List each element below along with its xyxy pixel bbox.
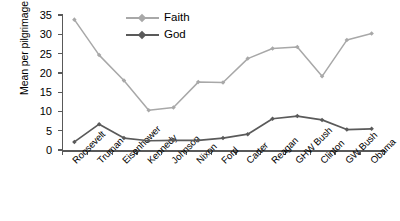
series-god <box>72 114 374 144</box>
data-point <box>270 46 275 51</box>
legend-swatch-faith <box>126 12 159 23</box>
data-point <box>146 138 151 143</box>
data-point <box>369 127 374 132</box>
data-point <box>320 118 325 123</box>
data-point <box>221 136 226 141</box>
legend-swatch-god <box>126 29 159 40</box>
legend-item-faith: Faith <box>126 9 190 26</box>
legend-marker-icon <box>138 30 146 38</box>
data-point <box>295 114 300 119</box>
legend-marker-icon <box>138 13 146 21</box>
data-point <box>345 127 350 132</box>
data-point <box>196 138 201 143</box>
legend-label-god: God <box>164 29 186 40</box>
legend-label-faith: Faith <box>164 12 190 23</box>
series-faith <box>72 17 374 112</box>
series-line <box>74 20 371 111</box>
legend: Faith God <box>126 9 190 43</box>
data-point <box>171 138 176 143</box>
chart-container: Mean per pilgrimage 05101520253035 Roose… <box>0 0 400 221</box>
legend-item-god: God <box>126 26 190 43</box>
series-layer <box>0 0 400 221</box>
data-point <box>369 31 374 36</box>
